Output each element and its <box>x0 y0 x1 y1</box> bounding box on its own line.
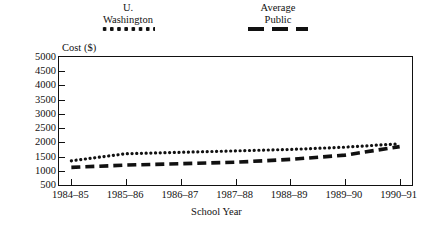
chart-figure: U. Washington Average Public Cost ($) 50… <box>0 0 433 236</box>
x-axis-tick-label: 1988–89 <box>271 189 308 200</box>
dotted-line-swatch-icon <box>101 27 155 31</box>
y-axis-tick <box>59 85 65 86</box>
y-axis-tick-label: 3500 <box>16 93 56 104</box>
legend-item-u-washington: U. Washington <box>78 2 178 31</box>
x-axis-tick-label: 1984–85 <box>52 189 89 200</box>
y-axis-tick <box>59 100 65 101</box>
x-axis-tick-label: 1989–90 <box>326 189 363 200</box>
y-axis-tick-label: 3000 <box>16 107 56 118</box>
y-axis-tick-label: 2500 <box>16 122 56 133</box>
y-axis-tick-label: 4500 <box>16 65 56 76</box>
y-axis-tick <box>59 114 65 115</box>
legend-label-average-public: Average Public <box>228 2 328 25</box>
x-axis-tick-labels: 1984–851985–861986–871987–881988–891989–… <box>0 189 433 205</box>
x-axis-tick-label: 1985–86 <box>107 189 144 200</box>
x-axis-tick <box>345 179 346 185</box>
dashed-line-swatch-icon <box>248 27 308 31</box>
x-axis-tick-label: 1986–87 <box>161 189 198 200</box>
x-axis-tick <box>236 179 237 185</box>
y-axis-tick <box>59 157 65 158</box>
y-axis-tick-label: 4000 <box>16 79 56 90</box>
y-axis-tick <box>59 142 65 143</box>
x-axis-tick <box>290 179 291 185</box>
x-axis-title: School Year <box>0 206 433 217</box>
x-axis-tick <box>126 179 127 185</box>
y-axis-tick <box>59 128 65 129</box>
y-axis-tick-label: 1000 <box>16 164 56 175</box>
x-axis-tick-label: 1987–88 <box>216 189 253 200</box>
legend-label-u-washington: U. Washington <box>78 2 178 25</box>
y-axis-tick-label: 1500 <box>16 150 56 161</box>
y-axis-tick <box>59 171 65 172</box>
y-axis-tick-label: 5000 <box>16 51 56 62</box>
x-axis-tick <box>71 179 72 185</box>
series-line-u-washington <box>71 144 399 161</box>
x-axis-tick <box>400 179 401 185</box>
y-axis-tick <box>59 71 65 72</box>
y-axis-tick-label: 500 <box>16 179 56 190</box>
y-axis-tick-label: 2000 <box>16 136 56 147</box>
x-axis-tick <box>181 179 182 185</box>
y-axis-title: Cost ($) <box>62 42 96 53</box>
chart-legend: U. Washington Average Public <box>0 2 433 46</box>
series-lines <box>59 57 412 185</box>
legend-item-average-public: Average Public <box>228 2 328 31</box>
y-axis-tick-labels: 500100015002000250030003500400045005000 <box>16 56 56 186</box>
plot-area <box>58 56 413 186</box>
x-axis-tick-label: 1990–91 <box>380 189 417 200</box>
